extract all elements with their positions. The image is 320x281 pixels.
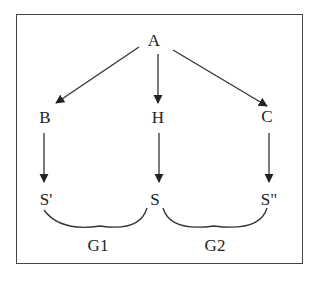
group-label-g2: G2 bbox=[205, 237, 226, 254]
bracket-g1 bbox=[44, 208, 147, 227]
bracket-g2 bbox=[163, 208, 267, 227]
node-c: C bbox=[261, 108, 272, 125]
node-s-double-prime: S" bbox=[261, 191, 277, 208]
node-s: S bbox=[150, 191, 159, 208]
group-label-g1: G1 bbox=[88, 237, 109, 254]
node-b: B bbox=[39, 109, 50, 126]
edge-a-b bbox=[56, 47, 139, 103]
node-s-prime: S' bbox=[40, 191, 53, 208]
edge-a-c bbox=[173, 50, 267, 106]
node-a: A bbox=[148, 32, 160, 49]
node-h: H bbox=[152, 109, 164, 126]
